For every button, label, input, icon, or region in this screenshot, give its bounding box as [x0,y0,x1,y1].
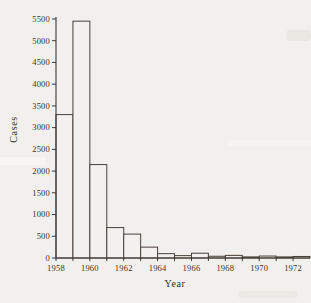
x-axis-title: Year [140,278,210,289]
x-tick-label: 1970 [250,263,268,273]
y-tick-label: 1000 [32,209,50,219]
y-tick-label: 500 [37,231,50,241]
bar-1962 [124,234,141,258]
cases-by-year-histogram: 0500100015002000250030003500400045005000… [0,0,311,303]
x-tick-label: 1972 [284,263,302,273]
y-tick-label: 4000 [32,79,50,89]
histogram-figure: 0500100015002000250030003500400045005000… [0,0,311,303]
y-tick-label: 4500 [32,57,50,67]
bar-1964 [158,254,175,258]
x-tick-label: 1964 [149,263,167,273]
x-tick-label: 1962 [115,263,133,273]
y-tick-label: 2500 [32,144,50,154]
x-tick-label: 1968 [216,263,234,273]
y-tick-label: 5500 [32,14,50,24]
x-tick-label: 1958 [47,263,65,273]
bar-1958 [56,115,73,258]
bar-1963 [141,247,158,258]
y-tick-label: 3000 [32,122,50,132]
y-axis-title: Cases [8,110,19,150]
y-tick-label: 3500 [32,101,50,111]
bar-1959 [73,21,90,258]
bar-1966 [191,253,208,258]
y-tick-label: 5000 [32,36,50,46]
y-tick-label: 0 [46,253,50,263]
y-tick-label: 2000 [32,166,50,176]
bar-1961 [107,228,124,258]
x-tick-label: 1960 [81,263,99,273]
y-tick-label: 1500 [32,188,50,198]
x-tick-label: 1966 [183,263,201,273]
bar-1960 [90,165,107,258]
